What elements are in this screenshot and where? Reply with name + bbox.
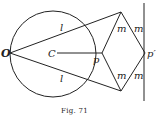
label-l-top: l [60,22,63,33]
label-p-prime: p′ [147,48,156,59]
figure-caption: Fig. 71 [61,107,88,115]
label-m-top-left: m [117,23,126,34]
label-C: C [48,48,56,59]
label-O: O [1,47,11,60]
label-p: p [93,54,100,65]
peaucellier-linkage-diagram: O C p p′ l l m m m m Fig. 71 [0,0,156,117]
label-m-bottom-left: m [117,70,126,81]
label-m-bottom-right: m [134,70,143,81]
label-m-top-right: m [134,23,143,34]
label-l-bottom: l [60,73,63,84]
